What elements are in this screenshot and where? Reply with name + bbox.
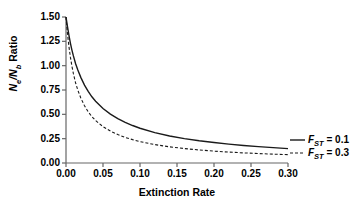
legend-symbol: FST [308, 134, 324, 145]
series-lines [66, 17, 288, 155]
y-axis-title: Ne/Nb Ratio [7, 19, 22, 109]
y-title-slash: / [7, 77, 19, 80]
y-title-sub1: e [14, 80, 23, 84]
axis-lines [66, 17, 288, 163]
x-axis-title: Extinction Rate [66, 186, 288, 198]
y-title-n2: N [7, 69, 19, 77]
legend-item: FST = 0.3 [308, 147, 349, 161]
x-tick-marks [66, 163, 288, 167]
y-title-n1: N [7, 84, 19, 92]
x-tick-label: 0.30 [266, 168, 310, 179]
y-tick-label: 1.25 [20, 36, 60, 46]
y-tick-label: 0.50 [20, 109, 60, 119]
y-tick-label: 1.00 [20, 61, 60, 71]
y-tick-label: 0.25 [20, 134, 60, 144]
y-tick-label: 0.00 [20, 158, 60, 168]
legend-subscript: ST [314, 152, 324, 161]
legend-item: FST = 0.1 [308, 134, 349, 148]
y-tick-label: 0.75 [20, 85, 60, 95]
legend-value: = 0.1 [324, 134, 349, 145]
y-title-rest: Ratio [7, 36, 19, 65]
series-line [66, 17, 288, 155]
y-tick-label: 1.50 [20, 12, 60, 22]
chart-figure: 0.000.250.500.751.001.251.50 0.000.050.1… [0, 0, 350, 208]
legend-swatches [290, 140, 305, 153]
legend-symbol: FST [308, 147, 324, 158]
legend-value: = 0.3 [324, 147, 349, 158]
y-title-sub2: b [14, 65, 23, 70]
series-line [66, 17, 288, 149]
